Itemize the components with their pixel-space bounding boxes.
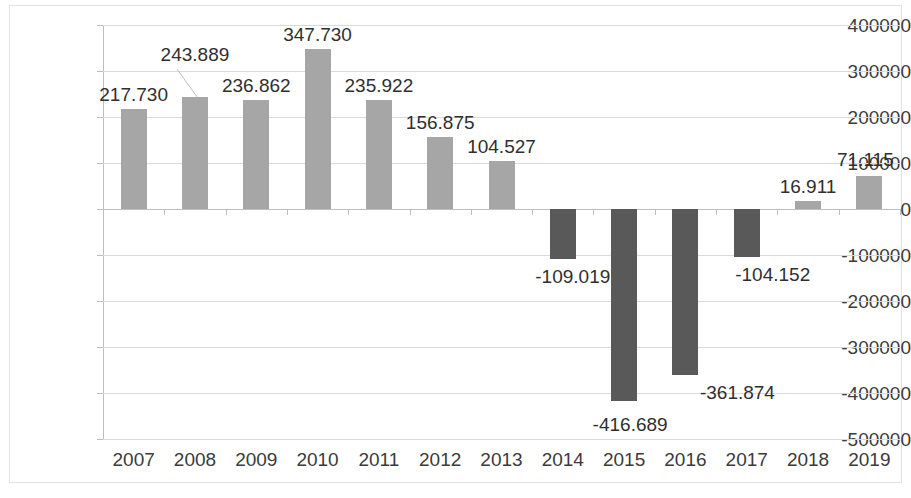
bar[interactable] <box>734 209 760 257</box>
category-axis-label: 2014 <box>542 450 584 469</box>
bar-value-label: -109.019 <box>535 267 610 286</box>
category-axis-tick <box>287 209 288 215</box>
bar[interactable] <box>243 100 269 209</box>
category-axis-tick <box>348 209 349 215</box>
gridline <box>103 347 900 348</box>
bar-value-label: 217.730 <box>99 85 168 104</box>
bar-value-label: 236.862 <box>222 76 291 95</box>
category-axis-label: 2015 <box>603 450 645 469</box>
bar-chart: 4000003000002000001000000-100000-200000-… <box>0 0 911 498</box>
bar-value-label: -361.874 <box>700 383 775 402</box>
bar-value-label: 71.115 <box>837 150 894 169</box>
category-axis-tick <box>532 209 533 215</box>
category-axis-tick <box>471 209 472 215</box>
category-axis-label: 2012 <box>419 450 461 469</box>
bar[interactable] <box>795 201 821 209</box>
category-axis-label: 2017 <box>726 450 768 469</box>
bar[interactable] <box>856 176 882 209</box>
category-axis-tick <box>410 209 411 215</box>
category-axis-label: 2016 <box>664 450 706 469</box>
bar[interactable] <box>550 209 576 259</box>
category-axis-label: 2018 <box>787 450 829 469</box>
bar[interactable] <box>611 209 637 401</box>
gridline <box>103 117 900 118</box>
gridline <box>103 71 900 72</box>
category-axis-label: 2008 <box>174 450 216 469</box>
bar-value-label: 243.889 <box>161 45 230 64</box>
bar[interactable] <box>366 100 392 209</box>
bar-value-label: -416.689 <box>593 415 668 434</box>
gridline <box>103 255 900 256</box>
bar[interactable] <box>489 161 515 209</box>
category-axis-tick <box>226 209 227 215</box>
category-axis-tick <box>900 209 901 215</box>
bar[interactable] <box>182 97 208 209</box>
category-axis-label: 2011 <box>358 450 399 469</box>
gridline <box>103 439 900 440</box>
category-axis-tick <box>839 209 840 215</box>
category-axis-tick <box>103 209 104 215</box>
category-axis-tick <box>777 209 778 215</box>
bar-value-label: 104.527 <box>467 137 536 156</box>
bar-value-label: 347.730 <box>283 25 352 44</box>
zero-gridline <box>103 209 900 210</box>
category-axis-label: 2007 <box>113 450 155 469</box>
gridline <box>103 393 900 394</box>
bar-value-label: 235.922 <box>345 76 414 95</box>
bar-value-label: 16.911 <box>780 177 837 196</box>
category-axis-label: 2010 <box>296 450 338 469</box>
category-axis-tick <box>593 209 594 215</box>
category-axis-tick <box>164 209 165 215</box>
gridline <box>103 25 900 26</box>
bar-value-label: -104.152 <box>735 265 810 284</box>
bar[interactable] <box>305 49 331 209</box>
bar[interactable] <box>427 137 453 209</box>
bar[interactable] <box>121 109 147 209</box>
category-axis-label: 2013 <box>480 450 522 469</box>
category-axis-label: 2009 <box>235 450 277 469</box>
category-axis-tick <box>655 209 656 215</box>
category-axis-tick <box>716 209 717 215</box>
bar[interactable] <box>672 209 698 375</box>
bar-value-label: 156.875 <box>406 113 475 132</box>
category-axis-label: 2019 <box>848 450 890 469</box>
gridline <box>103 301 900 302</box>
